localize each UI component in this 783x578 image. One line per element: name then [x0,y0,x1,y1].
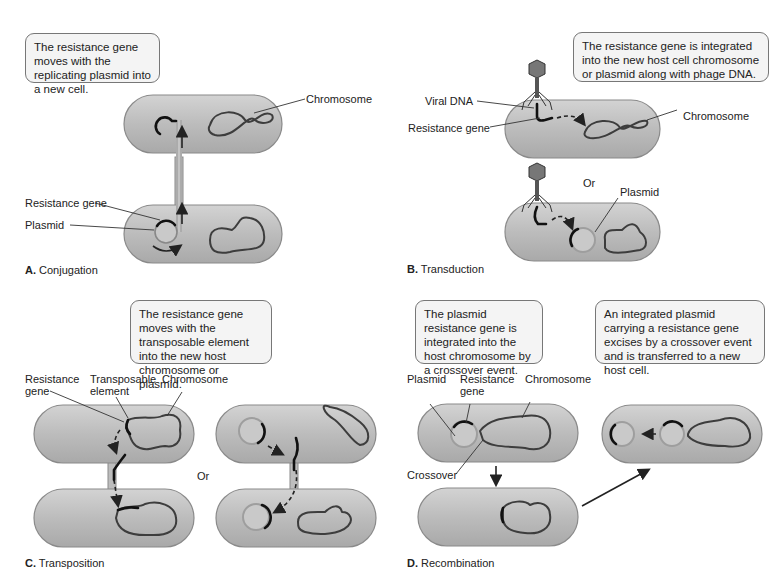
label-resistance-gene-b: Resistance gene [408,122,490,134]
label-plasmid-d: Plasmid [407,373,446,385]
label-or-c: Or [197,470,209,482]
callout-conjugation: The resistance gene moves with the repli… [25,33,160,83]
label-resistance-gene-a: Resistance gene [25,197,107,209]
caption-c: C. Transposition [25,557,104,569]
callout-recombination-1: The plasmid resistance gene is integrate… [415,300,543,364]
label-transposable-element: Transposable element [90,373,160,397]
donor-cell [124,95,282,153]
label-resistance-gene-d: Resistance gene [460,373,515,397]
panel-a-conjugation [70,95,305,263]
donor-cell-c [34,405,194,463]
label-viral-dna: Viral DNA [425,95,473,107]
recipient-cell-c [34,489,194,547]
label-chromosome-c: Chromosome [162,373,228,385]
label-chromosome-d: Chromosome [525,373,591,385]
callout-recombination-2: An integrated plasmid carrying a resista… [595,300,765,364]
panel-c-transposition [34,391,376,547]
label-plasmid-a: Plasmid [25,219,64,231]
diagram-canvas [0,0,783,578]
callout-transposition: The resistance gene moves with the trans… [130,300,272,364]
caption-a: A. Conjugation [25,264,98,276]
host-cell-chromosome [505,100,660,158]
label-chromosome-b: Chromosome [683,110,749,122]
recipient-cell [124,205,282,263]
label-crossover: Crossover [407,469,457,481]
host-cell-d1 [418,404,578,462]
label-resistance-gene-c: Resistance gene [25,373,85,397]
callout-transduction: The resistance gene is integrated into t… [573,32,769,82]
recipient-cell-c2 [216,489,376,547]
label-plasmid-b: Plasmid [620,186,659,198]
panel-d-recombination [418,402,762,546]
caption-b: B. Transduction [407,263,484,275]
host-cell-d2 [418,488,578,546]
panel-b-transduction [477,60,677,261]
label-or-b: Or [583,177,595,189]
label-chromosome-a: Chromosome [306,93,372,105]
caption-d: D. Recombination [407,557,494,569]
